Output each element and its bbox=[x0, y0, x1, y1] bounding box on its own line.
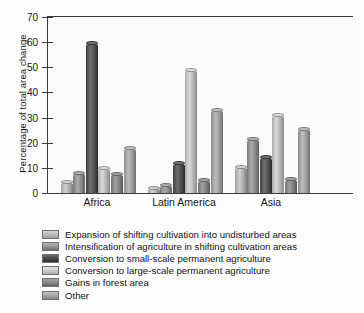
y-axis-tick-label: 20 bbox=[0, 137, 38, 148]
legend-label: Gains in forest area bbox=[65, 277, 149, 288]
legend-swatch-icon bbox=[42, 266, 59, 275]
bar-cap bbox=[148, 186, 160, 190]
bar-cap bbox=[285, 177, 297, 181]
bar-cap bbox=[235, 165, 247, 169]
legend-label: Other bbox=[65, 290, 89, 301]
bar-cap bbox=[198, 178, 210, 182]
plot-area: 010203040506070 bbox=[47, 16, 353, 194]
y-axis-tick-label: 60 bbox=[0, 37, 38, 48]
y-axis-tick-inner bbox=[48, 92, 53, 93]
bar-chart-figure: Percentage of total area change 01020304… bbox=[0, 0, 364, 313]
bar bbox=[185, 70, 197, 193]
y-axis-tick-label: 40 bbox=[0, 87, 38, 98]
bar bbox=[173, 163, 185, 193]
bar bbox=[86, 43, 98, 193]
y-axis-tick-inner bbox=[48, 17, 53, 18]
legend-swatch-icon bbox=[42, 254, 59, 263]
bar bbox=[198, 180, 210, 193]
bar-cap bbox=[98, 166, 110, 170]
bar bbox=[148, 188, 160, 193]
bar bbox=[160, 185, 172, 193]
legend-swatch-icon bbox=[42, 242, 59, 251]
bar bbox=[124, 148, 136, 193]
bar-cap bbox=[211, 108, 223, 112]
legend-label: Conversion to small-scale permanent agri… bbox=[65, 253, 271, 264]
legend-item: Gains in forest area bbox=[42, 277, 342, 289]
bar bbox=[247, 139, 259, 193]
bar-cap bbox=[124, 146, 136, 150]
bar bbox=[98, 168, 110, 193]
legend-swatch-icon bbox=[42, 230, 59, 239]
bar-cap bbox=[260, 155, 272, 159]
y-axis-tick-inner bbox=[48, 67, 53, 68]
bar bbox=[73, 173, 85, 193]
y-axis-tick-label: 0 bbox=[0, 188, 38, 199]
bar-cap bbox=[61, 180, 73, 184]
bar bbox=[272, 115, 284, 193]
chart-legend: Expansion of shifting cultivation into u… bbox=[42, 228, 342, 301]
bar-cap bbox=[185, 68, 197, 72]
bar bbox=[235, 167, 247, 193]
legend-item: Other bbox=[42, 289, 342, 301]
bar-cap bbox=[298, 127, 310, 131]
bar-cap bbox=[86, 41, 98, 45]
y-axis-tick-label: 10 bbox=[0, 162, 38, 173]
legend-label: Conversion to large-scale permanent agri… bbox=[65, 265, 270, 276]
bar-cap bbox=[247, 137, 259, 141]
y-axis-tick-label: 50 bbox=[0, 62, 38, 73]
bar-cap bbox=[272, 113, 284, 117]
legend-swatch-icon bbox=[42, 278, 59, 287]
y-axis-tick-label: 70 bbox=[0, 12, 38, 23]
bar-cap bbox=[173, 161, 185, 165]
x-axis-label: Latin America bbox=[152, 196, 216, 208]
y-axis-tick-inner bbox=[48, 42, 53, 43]
y-axis-tick-inner bbox=[48, 143, 53, 144]
bar bbox=[285, 179, 297, 193]
y-axis-tick-label: 30 bbox=[0, 112, 38, 123]
bar bbox=[61, 182, 73, 193]
bar bbox=[111, 174, 123, 193]
legend-item: Expansion of shifting cultivation into u… bbox=[42, 228, 342, 240]
legend-swatch-icon bbox=[42, 291, 59, 300]
y-axis-tick-inner bbox=[48, 193, 53, 194]
y-axis-tick-inner bbox=[48, 118, 53, 119]
legend-item: Conversion to small-scale permanent agri… bbox=[42, 252, 342, 264]
bar-cap bbox=[111, 172, 123, 176]
bar bbox=[260, 157, 272, 193]
legend-item: Intensification of agriculture in shifti… bbox=[42, 240, 342, 252]
x-axis-label: Africa bbox=[84, 196, 111, 208]
legend-label: Expansion of shifting cultivation into u… bbox=[65, 229, 296, 240]
legend-label: Intensification of agriculture in shifti… bbox=[65, 241, 297, 252]
x-axis-label: Asia bbox=[261, 196, 281, 208]
legend-item: Conversion to large-scale permanent agri… bbox=[42, 265, 342, 277]
bar bbox=[298, 129, 310, 193]
bar bbox=[211, 110, 223, 193]
y-axis-tick-inner bbox=[48, 168, 53, 169]
bar-cap bbox=[73, 171, 85, 175]
bar-cap bbox=[160, 183, 172, 187]
